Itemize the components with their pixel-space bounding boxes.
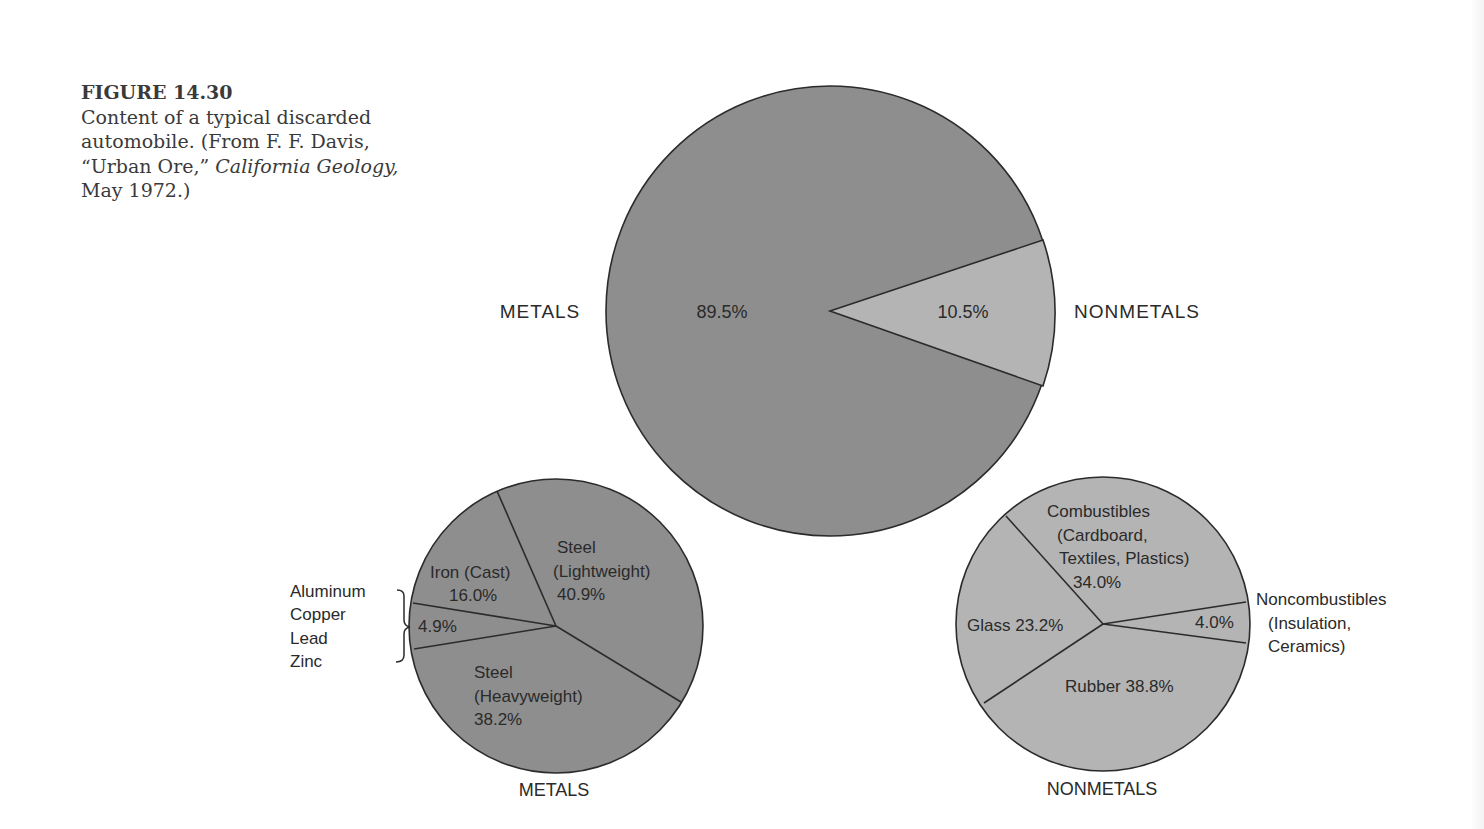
steel-light-pct: 40.9%: [557, 585, 605, 604]
combustibles-label-3: Textiles, Plastics): [1059, 549, 1189, 568]
main-pie-nonmetals-pct: 10.5%: [937, 302, 988, 322]
main-pie-metals-pct: 89.5%: [696, 302, 747, 322]
steel-light-label-1: Steel: [557, 538, 596, 557]
iron-pct: 16.0%: [449, 586, 497, 605]
steel-light-label-2: (Lightweight): [553, 562, 650, 581]
glass-label: Glass 23.2%: [967, 616, 1063, 635]
other-metals-pct: 4.9%: [418, 617, 457, 636]
iron-label: Iron (Cast): [430, 563, 510, 582]
steel-heavy-pct: 38.2%: [474, 710, 522, 729]
rubber-label: Rubber 38.8%: [1065, 677, 1174, 696]
combustibles-label-2: (Cardboard,: [1057, 526, 1148, 545]
curly-brace-icon: [396, 590, 410, 662]
bracket-item-copper: Copper: [290, 605, 346, 624]
noncombustibles-pct: 4.0%: [1195, 613, 1234, 632]
nonmetals-pie: Combustibles (Cardboard, Textiles, Plast…: [956, 477, 1386, 799]
nonmetals-pie-title: NONMETALS: [1047, 779, 1158, 799]
noncombustibles-label-3: Ceramics): [1268, 637, 1345, 656]
main-pie: METALS 89.5% 10.5% NONMETALS: [500, 86, 1200, 536]
page-edge-shadow: [1470, 0, 1484, 829]
pie-charts: METALS 89.5% 10.5% NONMETALS Steel (Ligh…: [0, 0, 1484, 829]
main-pie-metals-label: METALS: [500, 301, 581, 322]
bracket-item-lead: Lead: [290, 629, 328, 648]
steel-heavy-label-1: Steel: [474, 663, 513, 682]
combustibles-pct: 34.0%: [1073, 573, 1121, 592]
metals-pie: Steel (Lightweight) 40.9% Iron (Cast) 16…: [290, 479, 703, 800]
main-pie-nonmetals-label: NONMETALS: [1074, 301, 1200, 322]
combustibles-label-1: Combustibles: [1047, 502, 1150, 521]
bracket-item-zinc: Zinc: [290, 652, 323, 671]
metals-pie-title: METALS: [519, 780, 590, 800]
noncombustibles-label-1: Noncombustibles: [1256, 590, 1386, 609]
noncombustibles-label-2: (Insulation,: [1268, 614, 1351, 633]
bracket-item-aluminum: Aluminum: [290, 582, 366, 601]
steel-heavy-label-2: (Heavyweight): [474, 687, 583, 706]
